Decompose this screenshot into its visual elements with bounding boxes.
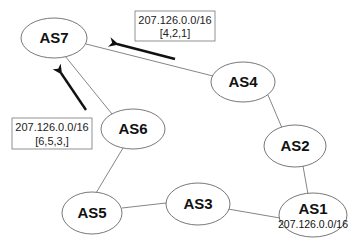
edge-as5-as3 bbox=[122, 203, 166, 208]
advert-path: [4,2,1] bbox=[160, 27, 191, 39]
advert-box-as6: 207.126.0.0/16 [6,5,3,] bbox=[12, 118, 92, 149]
edge-as7-as4 bbox=[86, 44, 213, 76]
node-as1: AS1 207.126.0.0/16 bbox=[278, 193, 348, 237]
bgp-network-diagram: 207.126.0.0/16 [4,2,1] 207.126.0.0/16 [6… bbox=[0, 0, 355, 250]
edge-as6-as5 bbox=[96, 148, 123, 193]
arrow-as6-to-as7 bbox=[61, 73, 86, 110]
node-prefix: 207.126.0.0/16 bbox=[278, 218, 348, 230]
node-as7: AS7 bbox=[21, 18, 87, 58]
node-as6: AS6 bbox=[101, 109, 165, 149]
node-label: AS2 bbox=[280, 137, 309, 154]
node-label: AS5 bbox=[77, 204, 106, 221]
advert-prefix: 207.126.0.0/16 bbox=[138, 14, 211, 26]
node-as3: AS3 bbox=[166, 183, 230, 225]
node-label: AS6 bbox=[118, 120, 147, 137]
node-label: AS7 bbox=[39, 29, 68, 46]
advert-prefix: 207.126.0.0/16 bbox=[15, 121, 88, 133]
node-as2: AS2 bbox=[264, 125, 326, 167]
edge-as4-as2 bbox=[268, 95, 282, 128]
advert-box-as4: 207.126.0.0/16 [4,2,1] bbox=[135, 11, 215, 41]
node-as5: AS5 bbox=[62, 192, 122, 234]
edge-as7-as6 bbox=[65, 56, 112, 114]
arrow-as4-to-as7 bbox=[117, 44, 175, 59]
node-as4: AS4 bbox=[211, 62, 275, 102]
edge-as2-as1 bbox=[303, 166, 308, 194]
node-label: AS4 bbox=[228, 73, 258, 90]
node-label: AS3 bbox=[183, 195, 212, 212]
edge-as3-as1 bbox=[228, 209, 280, 218]
node-label: AS1 bbox=[298, 200, 327, 217]
advert-path: [6,5,3,] bbox=[35, 135, 69, 147]
